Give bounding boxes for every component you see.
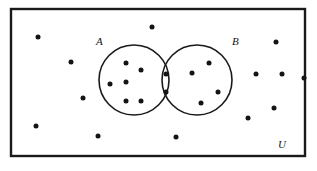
element-dot [81,96,86,101]
element-dot [139,68,144,73]
element-dot [280,72,285,77]
element-dot [207,61,212,66]
element-dot [174,135,179,140]
element-dot [150,25,155,30]
element-dot [164,90,169,95]
element-dot [254,72,259,77]
element-dot [36,35,41,40]
element-dot [164,72,169,77]
element-dot [139,99,144,104]
element-dot [199,101,204,106]
element-dot [108,82,113,87]
element-dot [190,71,195,76]
element-dot [124,99,129,104]
venn-diagram-canvas: A B U [0,0,317,171]
element-dot [96,134,101,139]
element-dot [272,106,277,111]
element-dot [34,124,39,129]
element-dot [246,116,251,121]
element-dot [69,60,74,65]
set-a-label: A [95,35,103,47]
element-dot [216,90,221,95]
element-dot [274,40,279,45]
element-dot [302,76,307,81]
venn-background [0,0,317,171]
element-dot [124,80,129,85]
set-b-label: B [232,35,239,47]
venn-diagram-figure: A B U [0,0,317,171]
universal-set-label: U [278,138,287,150]
element-dot [124,61,129,66]
